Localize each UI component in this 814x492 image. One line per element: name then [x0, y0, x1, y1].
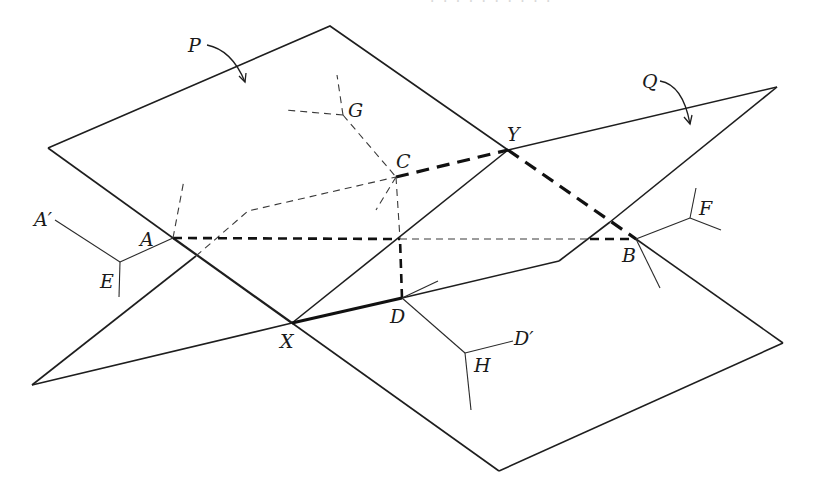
- plane-p-right-edge: [636, 239, 783, 343]
- plane-p-top-edge: [48, 26, 508, 150]
- line-f-right: [690, 218, 721, 230]
- plane-p-label: P: [187, 34, 202, 56]
- point-label-x: X: [278, 330, 295, 352]
- line-h-down: [465, 353, 471, 410]
- point-label-y: Y: [507, 123, 522, 145]
- line-b-down: [636, 239, 660, 288]
- point-label-a-prime: A′: [32, 208, 53, 230]
- point-label-h: H: [473, 354, 491, 376]
- plane-q-top-edge: [508, 87, 777, 150]
- line-b-f: [636, 218, 690, 239]
- diagram-canvas: · · · · · · · · · ·: [0, 0, 814, 492]
- line-f-up: [690, 188, 696, 218]
- point-label-d: D: [389, 305, 405, 327]
- plane-p-lower-left-edge: [292, 323, 499, 471]
- plane-q-right-edge-lower: [559, 222, 610, 261]
- point-label-g: G: [348, 99, 363, 121]
- line-a-prime-e: [55, 220, 120, 262]
- hidden-g-up: [337, 75, 343, 115]
- plane-q-hidden-edge: [196, 177, 396, 256]
- point-label-a: A: [138, 228, 154, 250]
- hidden-a-vertical: [173, 180, 184, 238]
- plane-p: [48, 26, 783, 471]
- path-a-horizontal: [173, 238, 400, 239]
- line-e-down: [119, 262, 120, 297]
- geometry-diagram: · · · · · · · · · ·: [0, 0, 814, 492]
- line-d-h: [402, 298, 465, 353]
- point-label-d-prime: D′: [513, 327, 534, 349]
- path-y-b: [508, 150, 636, 239]
- path-d-vertical: [400, 239, 402, 298]
- header-fragment: · · · · · · · · · ·: [430, 0, 553, 9]
- line-h-d-prime: [465, 341, 513, 353]
- plane-q-label-group: Q: [642, 70, 692, 124]
- point-label-c: C: [396, 150, 411, 172]
- plane-p-edge-a-x: [173, 238, 292, 323]
- hidden-g-c: [343, 115, 396, 177]
- plane-p-left-edge: [48, 148, 173, 238]
- hidden-c-vertical: [396, 177, 400, 239]
- point-label-f: F: [698, 197, 713, 219]
- hidden-g-left: [285, 110, 343, 115]
- plane-q-label: Q: [642, 70, 658, 92]
- point-label-b: B: [621, 244, 636, 266]
- plane-q-edge-bend-d: [402, 261, 559, 298]
- plane-q-arrow-icon: [660, 81, 690, 124]
- point-label-e: E: [99, 270, 114, 292]
- plane-p-bottom-edge: [499, 343, 783, 471]
- line-d-up-right: [402, 281, 438, 298]
- hidden-c-leg: [376, 177, 396, 210]
